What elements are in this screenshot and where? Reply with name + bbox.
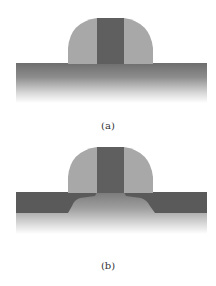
panel-a (16, 18, 207, 103)
substrate (16, 63, 207, 103)
panel-b (16, 147, 207, 234)
figure-canvas (0, 0, 216, 286)
caption-a: (a) (0, 120, 216, 131)
caption-b: (b) (0, 260, 216, 271)
gate (97, 147, 124, 193)
gate (97, 18, 124, 64)
